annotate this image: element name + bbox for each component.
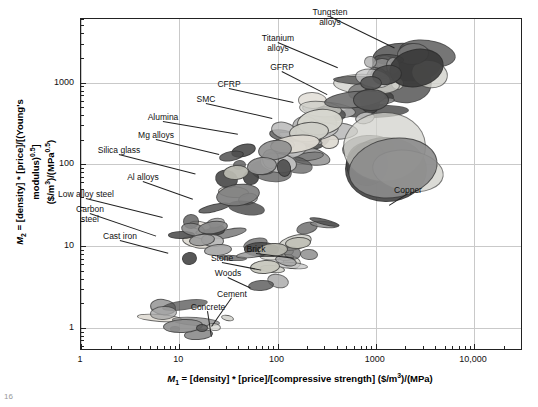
data-bubble (196, 324, 208, 332)
price-performance-bubble-chart: M1 = [density] * [price]/[compressive st… (0, 0, 538, 407)
x-tick (459, 346, 460, 349)
y-tick (81, 246, 86, 247)
y-tick (81, 340, 84, 341)
x-tick (226, 346, 227, 349)
x-tick (346, 346, 347, 349)
x-tick-label: 1 (77, 354, 82, 364)
y-tick (81, 164, 86, 165)
y-tick (81, 328, 86, 329)
y-tick (81, 259, 84, 260)
x-tick (423, 346, 424, 349)
y-tick (81, 33, 84, 34)
x-gridline (179, 19, 180, 349)
x-tick (474, 344, 475, 349)
x-tick (504, 346, 505, 349)
data-bubble (300, 249, 318, 261)
y-tick (81, 44, 84, 45)
x-gridline (81, 19, 82, 349)
y-tick (81, 168, 84, 169)
y-tick (81, 279, 84, 280)
data-bubble (181, 251, 198, 267)
x-tick (150, 346, 151, 349)
x-tick-label: 10,000 (459, 354, 487, 364)
y-tick (81, 264, 84, 265)
plot-area (80, 18, 522, 350)
x-tick (405, 346, 406, 349)
x-tick (307, 346, 308, 349)
x-tick (361, 346, 362, 349)
x-tick (111, 346, 112, 349)
x-tick (164, 346, 165, 349)
y-gridline (81, 328, 521, 329)
x-tick (273, 346, 274, 349)
chart-annotation: Carbon steel (76, 205, 104, 224)
x-tick (268, 346, 269, 349)
data-bubble (360, 76, 382, 90)
x-tick (128, 346, 129, 349)
y-tick (81, 101, 84, 102)
y-tick (81, 254, 84, 255)
x-tick (209, 346, 210, 349)
y-tick-label: 1 (44, 322, 74, 332)
x-tick (324, 346, 325, 349)
chart-annotation: Cement (217, 290, 247, 300)
x-tick (337, 346, 338, 349)
y-tick-label: 10 (44, 240, 74, 250)
y-tick (81, 83, 86, 84)
x-tick (465, 346, 466, 349)
x-tick (366, 346, 367, 349)
y-tick (81, 125, 84, 126)
y-tick (81, 172, 84, 173)
x-tick (157, 346, 158, 349)
y-tick (81, 25, 84, 26)
x-tick (238, 346, 239, 349)
x-tick (354, 346, 355, 349)
chart-annotation: Copper (394, 186, 422, 196)
x-axis-title: M1 = [density] * [price]/[compressive st… (80, 372, 520, 386)
y-tick (81, 115, 84, 116)
data-bubble (248, 279, 275, 292)
y-tick (81, 91, 84, 92)
chart-annotation: Titanium alloys (262, 34, 294, 53)
x-tick (170, 346, 171, 349)
y-tick (81, 303, 84, 304)
y-tick (81, 182, 84, 183)
x-tick (470, 346, 471, 349)
x-tick (256, 346, 257, 349)
x-tick (278, 344, 279, 349)
x-tick (262, 346, 263, 349)
x-tick-label: 1000 (365, 354, 385, 364)
y-tick (81, 271, 84, 272)
y-tick (81, 250, 84, 251)
x-tick (376, 344, 377, 349)
y-gridline (81, 83, 521, 84)
y-tick (81, 86, 84, 87)
y-tick (81, 19, 84, 20)
x-tick (452, 346, 453, 349)
x-tick (175, 346, 176, 349)
data-bubble (353, 89, 389, 111)
y-tick (81, 107, 84, 108)
y-tick (81, 332, 84, 333)
y-tick-label: 1000 (44, 77, 74, 87)
x-gridline (474, 19, 475, 349)
x-tick-label: 100 (269, 354, 284, 364)
y-tick (81, 336, 84, 337)
x-tick (521, 346, 522, 349)
x-tick (248, 346, 249, 349)
y-tick-label: 100 (44, 158, 74, 168)
x-tick (140, 346, 141, 349)
y-tick (81, 140, 84, 141)
y-tick (81, 95, 84, 96)
y-tick (81, 177, 84, 178)
y-tick (81, 58, 84, 59)
y-tick (81, 346, 84, 347)
x-tick (371, 346, 372, 349)
figure-number: 16 (4, 392, 13, 401)
x-tick (435, 346, 436, 349)
data-bubble (220, 314, 234, 323)
x-tick-label: 10 (173, 354, 183, 364)
x-tick (179, 344, 180, 349)
x-tick (445, 346, 446, 349)
y-tick (81, 289, 84, 290)
